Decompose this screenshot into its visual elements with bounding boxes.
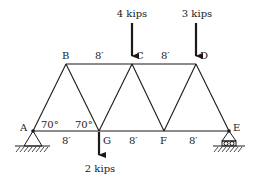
truss-diagram: 4 kips 3 kips 2 kips A B C D E F G 8′ 8′…: [0, 0, 253, 186]
truss-members: [33, 64, 229, 131]
dimension-GF: 8′: [129, 135, 138, 146]
load-label-G: 2 kips: [85, 163, 115, 174]
joint-label-F: F: [160, 135, 167, 146]
member-FD: [164, 64, 196, 131]
member-CF: [132, 64, 164, 131]
member-DE: [196, 64, 229, 131]
dimension-CD: 8′: [161, 50, 170, 61]
load-label-C: 4 kips: [117, 8, 147, 19]
joint-label-G: G: [103, 135, 111, 146]
roller-support-E: [213, 131, 245, 152]
joint-label-D: D: [200, 50, 208, 61]
joint-label-B: B: [62, 50, 69, 61]
angle-label-G: 70°: [75, 119, 93, 130]
pin-support-A: [15, 131, 50, 152]
dimension-FE: 8′: [189, 135, 198, 146]
load-label-D: 3 kips: [182, 8, 212, 19]
member-GC: [99, 64, 132, 131]
angle-label-A: 70°: [41, 119, 59, 130]
dimension-AG: 8′: [62, 135, 71, 146]
joint-label-C: C: [136, 50, 144, 61]
joint-label-A: A: [19, 122, 28, 133]
joint-label-E: E: [233, 122, 240, 133]
dimension-BC: 8′: [95, 50, 104, 61]
